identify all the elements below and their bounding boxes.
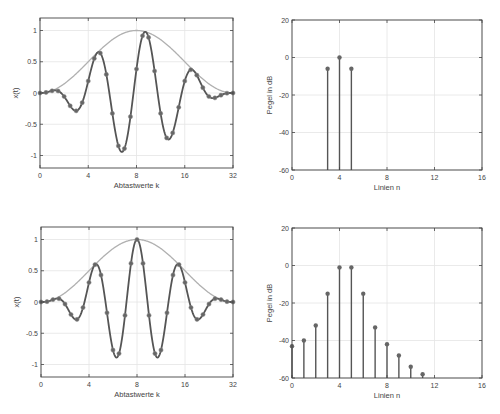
y-tick-label: 1 [34,236,38,243]
x-tick-label: 8 [135,172,139,179]
sample-marker [117,351,121,355]
sample-marker [207,94,211,98]
sample-marker [213,96,217,100]
sample-marker [128,115,132,119]
y-tick-label: 1 [33,27,37,34]
sample-marker [80,101,84,105]
sample-marker [153,351,157,355]
sample-marker [134,67,138,71]
sample-marker [104,72,108,76]
x-tick-label: 12 [431,382,439,389]
stem-marker [314,323,318,327]
sample-marker [165,311,169,315]
x-tick-label: 4 [86,172,90,179]
x-tick-label: 0 [38,172,42,179]
x-tick-label: 16 [181,172,189,179]
sample-marker [45,300,49,304]
sample-marker [98,51,102,55]
sample-marker [219,93,223,97]
x-tick-label: 16 [478,174,486,181]
sample-marker [207,302,211,306]
sample-marker [146,35,150,39]
sample-marker [189,305,193,309]
y-tick-label: -20 [279,300,289,307]
x-tick-label: 8 [385,382,389,389]
y-tick-label: 20 [281,225,289,232]
y-tick-label: -1 [32,361,38,368]
sample-marker [140,34,144,38]
y-axis-label: x(t) [11,87,20,98]
x-tick-label: 16 [181,381,189,388]
sample-marker [68,104,72,108]
sample-marker [57,297,61,301]
y-axis-label: Pegel in dB [265,76,274,114]
sample-marker [51,298,55,302]
x-tick-label: 4 [338,174,342,181]
chart-top-left: 0481632-1-0.500.51Abtastwerte kx(t) [11,18,237,190]
stem-marker [349,67,353,71]
y-tick-label: -0.5 [26,330,38,337]
sample-marker [147,313,151,317]
stem-marker [361,291,365,295]
sample-marker [152,69,156,73]
stem-marker [325,67,329,71]
sample-marker [159,111,163,115]
stem-marker [349,265,353,269]
sample-marker [177,105,181,109]
sample-marker [129,261,133,265]
sample-marker [81,305,85,309]
x-axis-label: Linien n [374,183,400,192]
stem-marker [397,353,401,357]
sample-marker [135,237,139,241]
sample-marker [195,317,199,321]
sample-marker [219,298,223,302]
y-axis-label: x(t) [12,296,21,307]
sample-marker [92,56,96,60]
sample-marker [177,263,181,267]
sample-marker [213,297,217,301]
chart-bottom-left: 0481632-1-0.500.51Abtastwerte kx(t) [12,227,237,399]
stem-marker [385,342,389,346]
sample-marker [44,90,48,94]
sample-marker [189,68,193,72]
sample-marker [123,313,127,317]
chart-bottom-right: 0481216-60-40-20020Linien nPegel in dB [265,225,486,401]
y-tick-label: 0.5 [28,267,38,274]
y-axis-label: Pegel in dB [265,284,274,322]
stem-marker [409,365,413,369]
x-tick-label: 8 [385,174,389,181]
sample-marker [69,312,73,316]
stem-marker [337,55,341,59]
sample-marker [110,111,114,115]
stem-marker [302,338,306,342]
y-tick-label: 20 [281,17,289,24]
sample-marker [86,79,90,83]
y-tick-label: 0 [33,90,37,97]
sample-marker [165,136,169,140]
stem-marker [420,372,424,376]
y-tick-label: -60 [279,167,289,174]
x-tick-label: 16 [478,382,486,389]
x-tick-label: 12 [431,174,439,181]
sample-marker [75,317,79,321]
stem-marker [325,291,329,295]
y-tick-label: -1 [31,152,37,159]
sample-marker [225,300,229,304]
x-axis-label: Abtastwerte k [114,181,160,190]
y-tick-label: -40 [279,129,289,136]
x-tick-label: 0 [290,174,294,181]
y-tick-label: 0 [34,299,38,306]
x-tick-label: 0 [39,381,43,388]
x-tick-label: 0 [290,382,294,389]
sample-marker [99,273,103,277]
sample-marker [111,348,115,352]
sample-marker [122,146,126,150]
x-tick-label: 32 [229,381,237,388]
x-tick-label: 8 [135,381,139,388]
figure-canvas: 0481632-1-0.500.51Abtastwerte kx(t)04812… [0,0,500,414]
x-tick-label: 4 [87,381,91,388]
x-axis-label: Abtastwerte k [114,390,160,399]
sample-marker [63,302,67,306]
x-tick-label: 32 [229,172,237,179]
sample-marker [50,89,54,93]
